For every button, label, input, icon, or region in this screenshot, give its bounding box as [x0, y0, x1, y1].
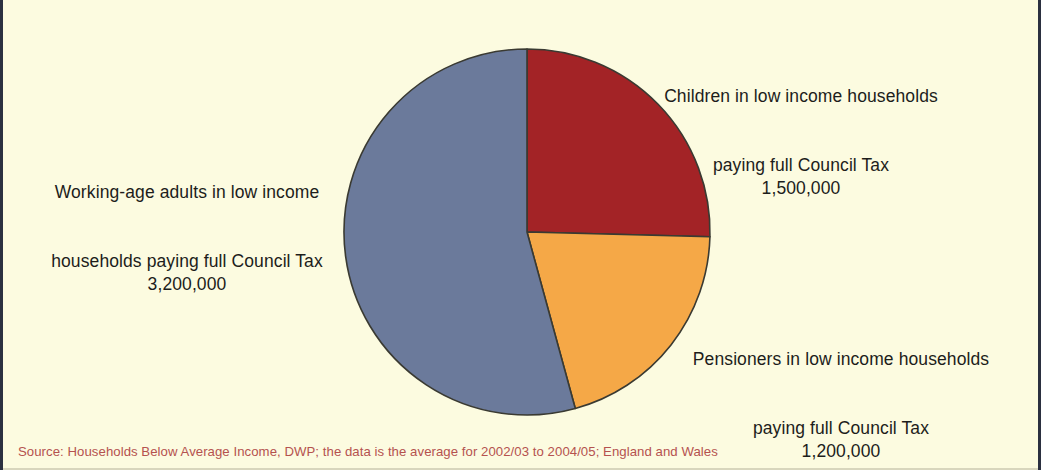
source-note: Source: Households Below Average Income,…	[18, 444, 718, 460]
slice-label-working-age-adults: Working-age adults in low income househo…	[17, 158, 357, 320]
slice-label-children-value: 1,500,000	[631, 177, 971, 200]
chart-plot-area: Children in low income households paying…	[3, 0, 1041, 432]
slice-label-working-age-adults-line1: Working-age adults in low income	[55, 182, 320, 202]
slice-label-pensioners: Pensioners in low income households payi…	[667, 325, 1015, 470]
slice-label-children-line2: paying full Council Tax	[713, 155, 889, 175]
pie-chart-figure: Children in low income households paying…	[0, 0, 1041, 470]
slice-label-working-age-adults-line2: households paying full Council Tax	[51, 251, 323, 271]
slice-label-children-line1: Children in low income households	[664, 86, 938, 106]
slice-label-pensioners-value: 1,200,000	[667, 440, 1015, 463]
slice-label-children: Children in low income households paying…	[631, 62, 971, 224]
slice-label-working-age-adults-value: 3,200,000	[17, 273, 357, 296]
slice-label-pensioners-line2: paying full Council Tax	[753, 418, 929, 438]
slice-label-pensioners-line1: Pensioners in low income households	[693, 349, 989, 369]
